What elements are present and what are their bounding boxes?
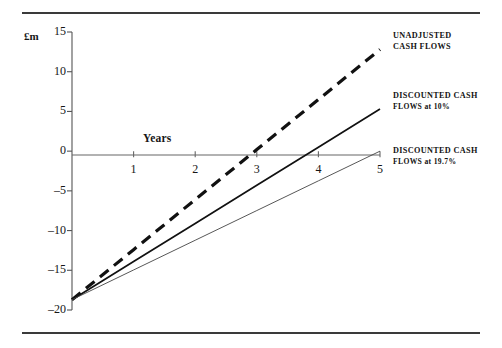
y-axis-ticks [67,32,72,310]
series-line-0 [72,49,380,299]
y-tick-label: 15 [24,25,66,37]
series-label-discounted-10-line1: DISCOUNTED CASH [393,91,478,102]
series-line-1 [72,109,380,300]
y-tick-label: –20 [24,303,66,315]
series-label-discounted-197: DISCOUNTED CASH FLOWS at 19.7% [393,146,478,167]
x-tick-label: 4 [308,163,328,175]
x-axis-ticks [134,151,380,157]
series-label-unadjusted-line1: UNADJUSTED [393,31,452,42]
x-axis-title: Years [143,133,171,145]
y-tick-label: –15 [24,263,66,275]
x-tick-label: 3 [247,163,267,175]
series-label-unadjusted: UNADJUSTED CASH FLOWS [393,31,452,52]
y-tick-label: –10 [24,224,66,236]
chart-series-group [72,49,380,299]
y-tick-label: 10 [24,65,66,77]
x-tick-label: 5 [370,163,390,175]
series-label-discounted-197-line2: FLOWS at 19.7% [393,157,478,168]
y-tick-label: 5 [24,104,66,116]
series-label-discounted-197-line1: DISCOUNTED CASH [393,146,478,157]
series-label-unadjusted-line2: CASH FLOWS [393,42,452,53]
x-tick-label: 2 [185,163,205,175]
series-label-discounted-10-line2: FLOWS at 10% [393,102,478,113]
series-label-discounted-10: DISCOUNTED CASH FLOWS at 10% [393,91,478,112]
x-tick-label: 1 [124,163,144,175]
y-tick-label: –5 [24,184,66,196]
y-tick-label: 0 [24,144,66,156]
